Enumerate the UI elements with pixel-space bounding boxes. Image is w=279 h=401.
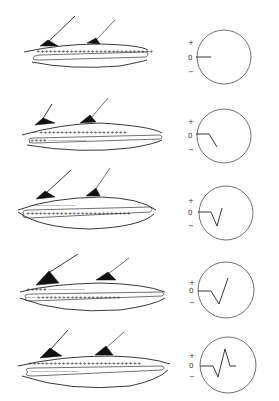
nerve-fiber-2: --- +++++++++++++++++++++ ++++ ---------… — [22, 98, 162, 150]
oscilloscope-1: + 0 − — [188, 30, 251, 84]
electrode-contact-1a — [40, 40, 58, 46]
electrode-3b — [95, 168, 110, 190]
oscilloscope-4: + 0 − — [189, 262, 254, 318]
label-plus-3: + — [188, 197, 194, 205]
label-minus-2: − — [188, 146, 194, 154]
oscilloscope-3: + 0 − — [188, 186, 253, 240]
stage-1: ++++++++++++++++++++++++++++ + 0 − — [24, 16, 251, 84]
stage-2: --- +++++++++++++++++++++ ++++ ---------… — [22, 98, 251, 163]
scope-screen-3 — [199, 186, 253, 240]
label-plus-2: + — [188, 118, 194, 126]
electrode-contact-5b — [95, 346, 113, 355]
label-zero-5: 0 — [189, 362, 193, 370]
outer-membrane-lower-1 — [32, 60, 147, 67]
scope-screen-2 — [197, 109, 251, 163]
electrode-contact-5a — [40, 348, 62, 358]
trace-4 — [198, 278, 228, 304]
trace-2 — [196, 134, 217, 147]
electrode-contact-4b — [96, 272, 116, 280]
label-zero-2: 0 — [188, 132, 192, 140]
charges-inner-2: ++++ --------------------- — [30, 137, 86, 143]
scope-screen-4 — [198, 262, 254, 318]
charges-inner-5: --------------------------- — [30, 368, 79, 374]
electrode-3a — [46, 170, 71, 193]
nerve-fiber-1: ++++++++++++++++++++++++++++ — [24, 16, 153, 67]
trace-3 — [198, 208, 222, 226]
label-minus-4: − — [189, 299, 195, 307]
trace-5 — [200, 349, 236, 377]
electrode-contact-2b — [80, 115, 96, 123]
label-zero-1: 0 — [188, 54, 192, 62]
electrode-contact-1b — [87, 38, 100, 44]
electrode-4b — [108, 258, 129, 274]
nerve-fiber-4: +++++ -------------------- ----- +++++++… — [20, 254, 165, 311]
charges-inner-4: ----- ++++++++++++++++++++ — [26, 294, 120, 300]
charges-outer-1: ++++++++++++++++++++++++++++ — [36, 48, 153, 54]
nerve-fiber-5: +++++++++++++++++++++++++++ ------------… — [18, 330, 170, 388]
stage-3: ------------------------- ++++++++++++++… — [18, 168, 253, 240]
charges-outer-2: --- +++++++++++++++++++++ — [32, 129, 127, 135]
charges-outer-3: ------------------------- — [30, 202, 75, 208]
label-plus-5: + — [189, 352, 195, 360]
label-plus-1: + — [188, 39, 194, 47]
electrode-5a — [50, 330, 68, 350]
label-zero-3: 0 — [188, 209, 192, 217]
electrode-1a — [48, 16, 75, 42]
electrode-4a — [50, 254, 78, 272]
label-minus-3: − — [188, 222, 194, 230]
electrode-2b — [92, 98, 108, 117]
stage-5: +++++++++++++++++++++++++++ ------------… — [18, 330, 256, 393]
electrode-contact-4a — [36, 271, 59, 285]
nerve-fiber-3: ------------------------- ++++++++++++++… — [18, 168, 156, 229]
scope-screen-5 — [200, 337, 256, 393]
charges-outer-4: +++++ -------------------- — [26, 286, 85, 292]
electrode-5b — [106, 332, 124, 348]
charges-inner-3: +++++++++++++++++++++++++ — [26, 210, 131, 216]
oscilloscope-2: + 0 − — [188, 109, 251, 163]
label-zero-4: 0 — [189, 287, 193, 295]
electrode-contact-2a — [35, 118, 55, 125]
action-potential-diagram: ++++++++++++++++++++++++++++ + 0 − --- +… — [0, 0, 279, 401]
stage-4: +++++ -------------------- ----- +++++++… — [20, 254, 254, 318]
charges-outer-5: +++++++++++++++++++++++++++ — [28, 360, 141, 366]
oscilloscope-5: + 0 − — [189, 337, 256, 393]
electrode-1b — [96, 20, 115, 40]
electrode-contact-3a — [36, 191, 55, 199]
label-minus-5: − — [189, 373, 195, 381]
electrode-2a — [42, 104, 52, 120]
label-plus-4: + — [189, 279, 195, 287]
label-minus-1: − — [188, 68, 194, 76]
electrode-contact-3b — [86, 188, 100, 196]
